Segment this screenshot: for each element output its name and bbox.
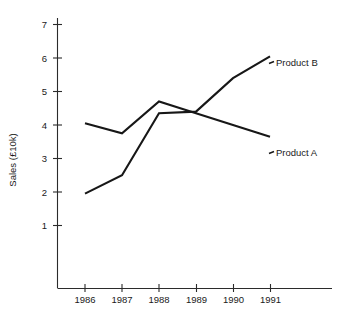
y-tick-label-5: 5 [42, 86, 47, 97]
y-tick-label-3: 3 [42, 153, 47, 164]
y-axis-title: Sales (£10k) [7, 133, 18, 186]
x-tick-label-1990: 1990 [223, 294, 244, 305]
x-tick-label-1988: 1988 [148, 294, 169, 305]
y-tick-label-6: 6 [42, 53, 47, 64]
y-tick-label-1: 1 [42, 220, 47, 231]
x-tick-label-1987: 1987 [111, 294, 132, 305]
leader-line-product-b [269, 62, 274, 64]
series-label-product-a: Product A [276, 147, 318, 158]
y-tick-label-2: 2 [42, 187, 47, 198]
x-tick-label-1991: 1991 [260, 294, 281, 305]
x-tick-label-1986: 1986 [74, 294, 95, 305]
series-line-product-a [85, 102, 270, 137]
x-tick-label-1989: 1989 [186, 294, 207, 305]
leader-line-product-a [269, 152, 274, 154]
line-chart: 7 6 5 4 3 2 1 1986 1987 1988 1989 1990 1… [0, 0, 339, 312]
series-line-product-b [85, 56, 270, 193]
series-label-product-b: Product B [276, 57, 318, 68]
y-tick-label-4: 4 [42, 120, 47, 131]
chart-canvas: 7 6 5 4 3 2 1 1986 1987 1988 1989 1990 1… [0, 0, 339, 312]
y-tick-label-7: 7 [42, 19, 47, 30]
